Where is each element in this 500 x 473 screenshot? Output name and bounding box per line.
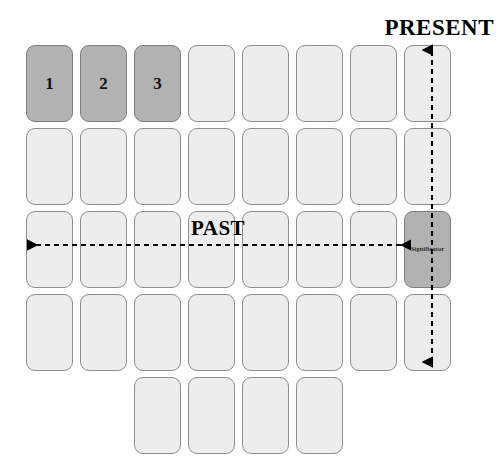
card-position-1[interactable]: 1 xyxy=(26,45,73,122)
card-slot[interactable] xyxy=(242,211,289,288)
card-slot[interactable] xyxy=(296,211,343,288)
card-slot[interactable] xyxy=(26,128,73,205)
card-slot[interactable] xyxy=(242,128,289,205)
card-number-label: 3 xyxy=(153,75,162,92)
card-slot[interactable] xyxy=(242,45,289,122)
card-significator[interactable]: Significator xyxy=(404,211,451,288)
card-slot[interactable] xyxy=(296,377,343,454)
card-slot[interactable] xyxy=(350,128,397,205)
card-slot[interactable] xyxy=(404,45,451,122)
significator-label: Significator xyxy=(411,246,445,253)
card-slot[interactable] xyxy=(296,294,343,371)
card-position-3[interactable]: 3 xyxy=(134,45,181,122)
card-slot[interactable] xyxy=(26,294,73,371)
card-slot[interactable] xyxy=(404,128,451,205)
card-slot[interactable] xyxy=(350,45,397,122)
card-slot[interactable] xyxy=(80,211,127,288)
card-slot[interactable] xyxy=(134,377,181,454)
card-slot[interactable] xyxy=(188,45,235,122)
card-slot[interactable] xyxy=(134,294,181,371)
card-slot[interactable] xyxy=(80,294,127,371)
past-axis-label: PAST xyxy=(191,218,245,239)
card-slot[interactable] xyxy=(296,45,343,122)
card-slot[interactable] xyxy=(80,128,127,205)
card-slot[interactable] xyxy=(242,294,289,371)
card-slot[interactable] xyxy=(404,294,451,371)
card-slot[interactable] xyxy=(350,294,397,371)
card-slot[interactable] xyxy=(350,211,397,288)
card-position-2[interactable]: 2 xyxy=(80,45,127,122)
tarot-spread-diagram: 123Significator PRESENT PAST xyxy=(0,0,500,473)
present-axis-label: PRESENT xyxy=(384,16,494,39)
card-slot[interactable] xyxy=(134,128,181,205)
card-slot[interactable] xyxy=(26,211,73,288)
card-slot[interactable] xyxy=(242,377,289,454)
card-number-label: 2 xyxy=(99,75,108,92)
card-slot[interactable] xyxy=(134,211,181,288)
card-number-label: 1 xyxy=(45,75,54,92)
card-slot[interactable] xyxy=(296,128,343,205)
card-slot[interactable] xyxy=(188,294,235,371)
card-slot[interactable] xyxy=(188,128,235,205)
card-slot[interactable] xyxy=(188,377,235,454)
